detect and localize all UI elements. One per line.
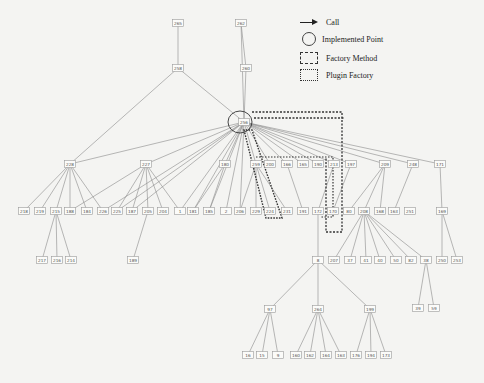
- graph-node[interactable]: 219: [35, 208, 46, 215]
- graph-node[interactable]: 2: [221, 208, 232, 215]
- node-label: 191: [299, 209, 307, 214]
- call-edge: [117, 164, 146, 211]
- graph-node[interactable]: 191: [298, 208, 309, 215]
- node-label: 180: [221, 162, 229, 167]
- graph-node[interactable]: 189: [128, 257, 139, 264]
- call-edge: [244, 122, 334, 164]
- graph-node[interactable]: 228: [65, 161, 76, 168]
- graph-node[interactable]: 200: [265, 161, 276, 168]
- graph-node[interactable]: 41: [361, 257, 372, 264]
- graph-node[interactable]: 218: [19, 208, 30, 215]
- graph-node[interactable]: 9: [273, 352, 284, 359]
- call-edge: [442, 211, 457, 260]
- graph-node[interactable]: 213: [329, 161, 340, 168]
- call-edge: [287, 164, 303, 211]
- graph-node[interactable]: 206: [235, 208, 246, 215]
- graph-node[interactable]: 181: [188, 208, 199, 215]
- graph-node[interactable]: 224: [265, 208, 276, 215]
- graph-node[interactable]: 217: [37, 257, 48, 264]
- graph-node[interactable]: 199: [365, 306, 376, 313]
- graph-node[interactable]: 184: [82, 208, 93, 215]
- node-label: 163: [337, 353, 345, 358]
- graph-node[interactable]: 166: [282, 161, 293, 168]
- graph-node[interactable]: 38: [421, 257, 432, 264]
- graph-node[interactable]: 226: [98, 208, 109, 215]
- graph-node[interactable]: 209: [380, 161, 391, 168]
- graph-node[interactable]: 8: [313, 257, 324, 264]
- graph-node[interactable]: 40: [375, 257, 386, 264]
- graph-node[interactable]: 205: [143, 208, 154, 215]
- graph-node[interactable]: 225: [112, 208, 123, 215]
- graph-node[interactable]: 37: [345, 257, 356, 264]
- graph-node[interactable]: 258: [173, 65, 184, 72]
- legend-label: Call: [326, 18, 339, 27]
- graph-node[interactable]: 253: [452, 257, 463, 264]
- graph-node[interactable]: 180: [220, 161, 231, 168]
- graph-node[interactable]: 164: [321, 352, 332, 359]
- graph-node[interactable]: 173: [381, 352, 392, 359]
- graph-node[interactable]: 231: [282, 208, 293, 215]
- graph-node[interactable]: 248: [408, 161, 419, 168]
- graph-node[interactable]: 188: [65, 208, 76, 215]
- node-label: 8: [317, 258, 320, 263]
- graph-node[interactable]: 207: [329, 257, 340, 264]
- graph-node[interactable]: 50: [391, 257, 402, 264]
- legend-label: Factory Method: [326, 54, 377, 63]
- graph-node[interactable]: 169: [437, 208, 448, 215]
- graph-node[interactable]: 256: [239, 119, 250, 126]
- node-label: 226: [99, 209, 107, 214]
- graph-node[interactable]: 190: [313, 161, 324, 168]
- graph-node[interactable]: 197: [346, 161, 357, 168]
- graph-node[interactable]: 251: [405, 208, 416, 215]
- graph-node[interactable]: 204: [158, 208, 169, 215]
- graph-node[interactable]: 227: [141, 161, 152, 168]
- call-edge: [440, 164, 442, 211]
- graph-node[interactable]: 80: [344, 208, 355, 215]
- graph-node[interactable]: 194: [366, 352, 377, 359]
- graph-node[interactable]: 168: [375, 208, 386, 215]
- graph-node[interactable]: 262: [236, 20, 247, 27]
- graph-node[interactable]: 163: [389, 208, 400, 215]
- graph-node[interactable]: 229: [251, 208, 262, 215]
- graph-node[interactable]: 1: [175, 208, 186, 215]
- graph-node[interactable]: 39: [413, 305, 424, 312]
- graph-node[interactable]: 15: [257, 352, 268, 359]
- graph-node[interactable]: 170: [328, 208, 339, 215]
- node-label: 216: [53, 258, 61, 263]
- graph-node[interactable]: 176: [351, 352, 362, 359]
- graph-node[interactable]: 208: [359, 208, 370, 215]
- graph-node[interactable]: 259: [251, 161, 262, 168]
- graph-node[interactable]: 59: [429, 305, 440, 312]
- node-label: 250: [438, 258, 446, 263]
- graph-node[interactable]: 214: [66, 257, 77, 264]
- node-label: 218: [20, 209, 28, 214]
- graph-node[interactable]: 165: [298, 161, 309, 168]
- graph-node[interactable]: 172: [313, 208, 324, 215]
- graph-node[interactable]: 265: [173, 20, 184, 27]
- graph-node[interactable]: 185: [204, 208, 215, 215]
- graph-node[interactable]: 16: [243, 352, 254, 359]
- node-label: 227: [142, 162, 150, 167]
- graph-node[interactable]: 97: [265, 306, 276, 313]
- graph-node[interactable]: 264: [313, 306, 324, 313]
- graph-node[interactable]: 250: [437, 257, 448, 264]
- graph-node[interactable]: 187: [127, 208, 138, 215]
- node-label: 1: [179, 209, 182, 214]
- graph-node[interactable]: 162: [305, 352, 316, 359]
- node-label: 2: [225, 209, 228, 214]
- graph-node[interactable]: 160: [291, 352, 302, 359]
- graph-node[interactable]: 216: [52, 257, 63, 264]
- call-edge: [244, 122, 351, 164]
- graph-node[interactable]: 171: [435, 161, 446, 168]
- call-edge: [364, 211, 366, 260]
- graph-node[interactable]: 260: [241, 65, 252, 72]
- legend-label: Implemented Point: [322, 35, 383, 44]
- graph-node[interactable]: 215: [51, 208, 62, 215]
- call-edge: [70, 68, 178, 164]
- node-label: 166: [283, 162, 291, 167]
- call-edge: [296, 309, 318, 355]
- graph-node[interactable]: 163: [336, 352, 347, 359]
- call-edge: [262, 309, 270, 355]
- graph-node[interactable]: 82: [406, 257, 417, 264]
- node-label: 214: [67, 258, 75, 263]
